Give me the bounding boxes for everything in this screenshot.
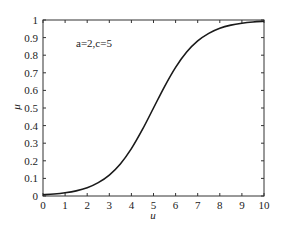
- y-tick-label: 0.1: [24, 172, 38, 184]
- x-tick-label: 2: [84, 199, 90, 211]
- y-tick-label: 0.3: [24, 137, 38, 149]
- x-tick-label: 10: [259, 199, 271, 211]
- x-tick-label: 7: [195, 199, 201, 211]
- x-tick-label: 4: [129, 199, 135, 211]
- y-axis-label: μ: [10, 104, 22, 111]
- y-tick-label: 0.4: [24, 120, 38, 132]
- x-tick-label: 0: [40, 199, 46, 211]
- y-tick-label: 0.8: [24, 49, 38, 61]
- x-tick-label: 3: [107, 199, 113, 211]
- y-tick-label: 0.6: [24, 84, 38, 96]
- y-tick-label: 0.9: [24, 32, 38, 44]
- chart: 01234567891000.10.20.30.40.50.60.70.80.9…: [0, 0, 284, 231]
- x-tick-label: 1: [62, 199, 68, 211]
- x-axis-label: u: [150, 209, 156, 221]
- tick-labels: 01234567891000.10.20.30.40.50.60.70.80.9…: [24, 14, 270, 211]
- y-tick-label: 0.2: [24, 155, 38, 167]
- parameter-annotation: a=2,c=5: [76, 37, 112, 49]
- y-tick-label: 0: [33, 190, 39, 202]
- y-tick-label: 1: [33, 14, 39, 26]
- x-tick-label: 9: [239, 199, 245, 211]
- x-tick-label: 8: [217, 199, 223, 211]
- x-tick-label: 6: [173, 199, 179, 211]
- y-tick-label: 0.5: [24, 102, 38, 114]
- y-tick-label: 0.7: [24, 67, 38, 79]
